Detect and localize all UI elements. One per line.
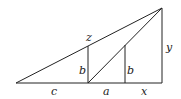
- label-z: z: [85, 31, 92, 44]
- label-x: x: [141, 85, 148, 98]
- label-b-left: b: [79, 64, 86, 77]
- label-a: a: [103, 85, 110, 98]
- label-c: c: [51, 85, 57, 98]
- diagram: z b b y c a x: [0, 0, 181, 99]
- hypotenuse-long: [16, 8, 162, 83]
- label-y: y: [165, 41, 173, 54]
- label-b-right: b: [127, 64, 134, 77]
